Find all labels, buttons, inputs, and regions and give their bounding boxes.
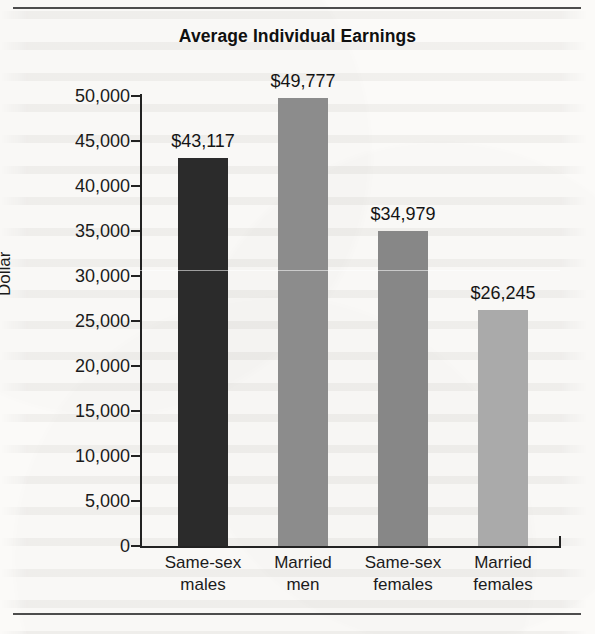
y-axis-tick-label: 0 bbox=[20, 536, 130, 557]
y-axis-tick bbox=[131, 545, 140, 547]
y-axis-tick-label: 5,000 bbox=[20, 491, 130, 512]
y-axis-tick bbox=[131, 140, 140, 142]
bar-value-label: $49,777 bbox=[270, 71, 335, 92]
chart-title: Average Individual Earnings bbox=[0, 26, 595, 47]
y-axis-tick bbox=[131, 95, 140, 97]
bar-value-label: $34,979 bbox=[370, 204, 435, 225]
bar[interactable]: $26,245 bbox=[478, 310, 528, 546]
y-axis-tick bbox=[131, 230, 140, 232]
bar-series: $43,117$49,777$34,979$26,245 bbox=[140, 96, 560, 546]
y-axis-tick bbox=[131, 365, 140, 367]
x-axis-category-label: Marriedfemales bbox=[451, 552, 555, 596]
bar-value-label: $43,117 bbox=[171, 131, 235, 152]
x-axis-category-label-line: Same-sex bbox=[151, 552, 255, 574]
x-axis-category-labels: Same-sexmalesMarriedmenSame-sexfemalesMa… bbox=[140, 552, 561, 612]
x-axis-category-label-line: females bbox=[351, 574, 455, 596]
page-rule-bottom bbox=[13, 613, 581, 615]
y-axis-tick-label: 30,000 bbox=[20, 266, 130, 287]
bar[interactable]: $43,117 bbox=[178, 158, 228, 546]
x-axis-category-label-line: females bbox=[451, 574, 555, 596]
y-axis-tick bbox=[131, 500, 140, 502]
plot-area: $43,117$49,777$34,979$26,245 bbox=[140, 96, 560, 546]
y-axis-tick-label: 40,000 bbox=[20, 176, 130, 197]
y-axis-tick-label: 25,000 bbox=[20, 311, 130, 332]
y-axis-tick bbox=[131, 320, 140, 322]
y-axis-tick bbox=[131, 455, 140, 457]
x-axis-category-label: Marriedmen bbox=[251, 552, 355, 596]
y-axis-tick bbox=[131, 275, 140, 277]
page-rule-top bbox=[13, 7, 581, 9]
x-axis-category-label-line: Married bbox=[251, 552, 355, 574]
y-axis-tick-label: 45,000 bbox=[20, 131, 130, 152]
bar-value-label: $26,245 bbox=[470, 283, 535, 304]
y-axis-title: Dollar bbox=[0, 252, 15, 296]
x-axis-category-label: Same-sexmales bbox=[151, 552, 255, 596]
x-axis-category-label-line: males bbox=[151, 574, 255, 596]
y-axis-tick-label: 10,000 bbox=[20, 446, 130, 467]
x-axis-category-label-line: Same-sex bbox=[351, 552, 455, 574]
bar[interactable]: $49,777 bbox=[278, 98, 328, 546]
bar[interactable]: $34,979 bbox=[378, 231, 428, 546]
y-axis-tick-label: 20,000 bbox=[20, 356, 130, 377]
y-axis-tick-labels: 50,00045,00040,00035,00030,00025,00020,0… bbox=[18, 96, 130, 546]
y-axis-tick-label: 35,000 bbox=[20, 221, 130, 242]
y-axis-tick-label: 50,000 bbox=[20, 86, 130, 107]
y-axis-tick-label: 15,000 bbox=[20, 401, 130, 422]
x-axis-line bbox=[140, 546, 561, 548]
y-axis-tick bbox=[131, 185, 140, 187]
y-axis-tick bbox=[131, 410, 140, 412]
figure-page: Average Individual Earnings Dollar 50,00… bbox=[0, 0, 595, 634]
x-axis-category-label-line: Married bbox=[451, 552, 555, 574]
x-axis-category-label: Same-sexfemales bbox=[351, 552, 455, 596]
x-axis-category-label-line: men bbox=[251, 574, 355, 596]
